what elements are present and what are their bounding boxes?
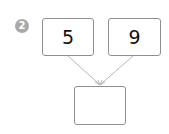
number-left: 5: [62, 26, 74, 48]
number-box-left: 5: [42, 18, 94, 56]
number-right: 9: [128, 26, 140, 48]
number-box-right: 9: [108, 18, 161, 56]
arrow-right: [101, 56, 133, 84]
answer-box[interactable]: [74, 86, 126, 125]
arrow-left: [68, 56, 99, 84]
